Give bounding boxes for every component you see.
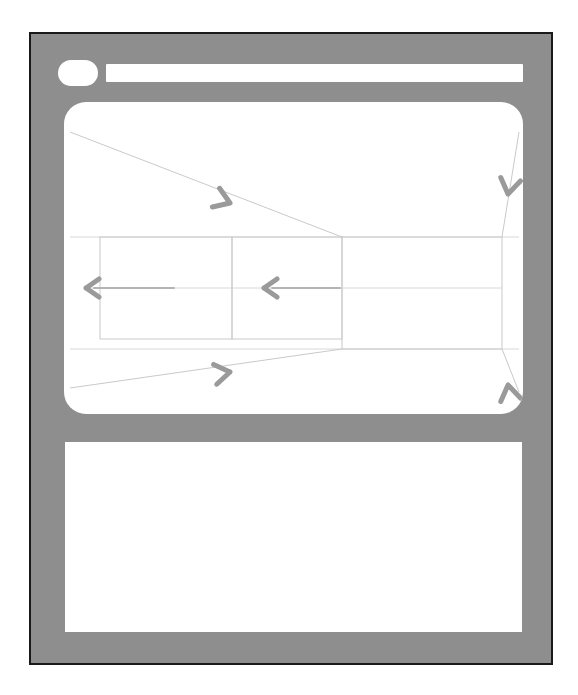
top-left-diagonal [70,132,342,237]
window-control-button[interactable] [58,60,98,86]
browser-titlebar [31,34,551,96]
content-panel[interactable] [65,442,522,632]
nested-rectangles [100,237,502,349]
arrow-top-diagonal-right [212,188,233,212]
address-bar-input[interactable] [106,64,523,82]
arrow-top-right-down [498,177,520,195]
bottom-left-diagonal [70,349,342,388]
convergence-lines [70,132,519,392]
viewport-panel[interactable] [64,102,523,414]
browser-window-frame [29,32,553,665]
outer-large-rect [342,237,502,349]
screenshot-stage [0,0,578,695]
guide-lines [70,237,519,349]
perspective-diagram-svg [64,102,523,414]
